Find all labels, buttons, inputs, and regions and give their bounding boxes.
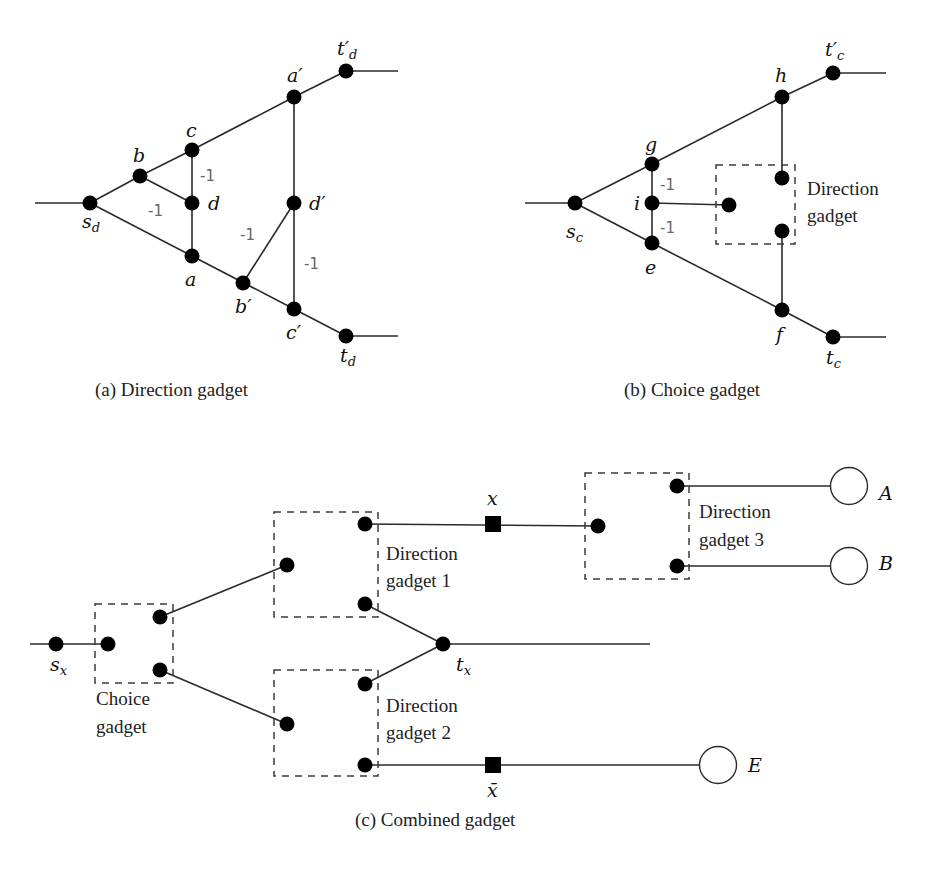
label-x: x [487,487,498,509]
dir3-label-line1: Direction [699,501,771,522]
edge-dir1-x-dir3 [365,524,598,526]
weight-dprime-cprime: -1 [304,255,319,273]
weight-c-d: -1 [200,167,215,185]
panel-b-choice-gadget: sc g i e h f t′c tc -1 -1 Direction gadg… [525,38,886,401]
label-d: d [208,192,220,214]
node-dir1-in [280,558,295,573]
weight-i-e: -1 [660,219,675,237]
edge-sc-g [575,164,652,203]
edge-sd-a [90,203,192,256]
edge-dir1-tx [365,604,443,644]
figure-canvas: sd b c d a b′ c′ d′ a′ t′d td -1 -1 -1 -… [0,0,929,873]
edge-b-d [140,176,192,203]
panel-a-direction-gadget: sd b c d a b′ c′ d′ a′ t′d td -1 -1 -1 -… [35,37,398,401]
edge-h-tcprime [782,73,833,97]
label-f: f [774,323,786,345]
edge-c-aprime [192,97,294,150]
node-dir1-bottom [358,597,373,612]
edge-cprime-td [294,309,346,336]
node-tc [826,330,841,345]
label-e: e [645,256,656,278]
label-bprime: b′ [235,295,252,317]
node-xbar-square [485,757,501,773]
caption-b: (b) Choice gadget [624,379,761,401]
node-x-square [485,516,501,532]
node-dir3-bottom [670,559,685,574]
node-g [645,157,660,172]
node-tdprime [339,64,354,79]
panel-c-combined-gadget: sx tx x x̄ A B E Choice gadget Direction… [30,468,893,832]
label-E: E [747,754,762,776]
node-choice-top [153,610,168,625]
edge-sd-b [90,176,140,203]
node-i [645,196,660,211]
edge-i-dir [652,203,729,205]
node-sx [49,637,64,652]
label-A: A [877,482,893,504]
edge-dir2-tx [365,644,443,684]
choice-gadget-label-line2: gadget [96,716,147,737]
node-f [775,303,790,318]
choice-gadget-label-line1: Choice [96,688,150,709]
label-xbar: x̄ [487,779,498,801]
node-cprime [287,302,302,317]
label-i: i [634,192,640,214]
node-dir1-top [358,517,373,532]
label-aprime: a′ [287,64,303,86]
node-c [185,143,200,158]
direction-gadget-label-line2: gadget [807,205,858,226]
label-h: h [775,64,787,86]
dir3-label-line2: gadget 3 [699,529,764,550]
dir1-label-line1: Direction [386,543,458,564]
node-tcprime [826,66,841,81]
edge-sc-e [575,203,652,243]
weight-b-d: -1 [148,202,163,220]
label-tx: tx [456,653,472,678]
node-dir-top [775,171,790,186]
label-tc: tc [826,346,842,371]
node-dir3-top [670,479,685,494]
label-dprime: d′ [309,192,326,214]
edge-g-h [652,97,782,164]
label-tdprime: t′d [337,37,357,62]
node-sd [83,196,98,211]
node-d [185,196,200,211]
label-sd: sd [82,210,100,235]
label-tcprime: t′c [825,38,845,63]
label-cprime: c′ [286,321,302,343]
node-dir3-in [591,519,606,534]
node-dir2-in [280,717,295,732]
node-choice-in [101,637,116,652]
node-tx [436,637,451,652]
dir2-label-line1: Direction [386,695,458,716]
node-dir-in [722,198,737,213]
dir2-label-line2: gadget 2 [386,722,451,743]
edge-e-f [652,243,782,310]
label-b: b [133,144,145,166]
direction-gadget-label-line1: Direction [807,178,879,199]
label-c: c [186,119,197,141]
caption-a: (a) Direction gadget [95,379,249,401]
dir1-label-line2: gadget 1 [386,570,451,591]
node-h [775,90,790,105]
label-a: a [185,268,196,290]
node-e [645,236,660,251]
label-g: g [645,133,657,155]
node-bprime [236,276,251,291]
node-choice-bottom [153,663,168,678]
edge-choice-dir2 [160,670,287,724]
node-a [185,249,200,264]
edge-choice-dir1 [160,565,287,617]
edge-f-tc [782,310,833,337]
node-aprime [287,90,302,105]
weight-g-i: -1 [660,176,675,194]
terminal-B [831,548,868,585]
weight-bprime-dprime: -1 [240,226,255,244]
node-dir-bottom [775,224,790,239]
node-dir2-top [358,677,373,692]
terminal-A [831,468,868,505]
caption-c: (c) Combined gadget [355,809,516,831]
terminal-E [700,747,737,784]
node-sc [568,196,583,211]
edge-b-c [140,150,192,176]
